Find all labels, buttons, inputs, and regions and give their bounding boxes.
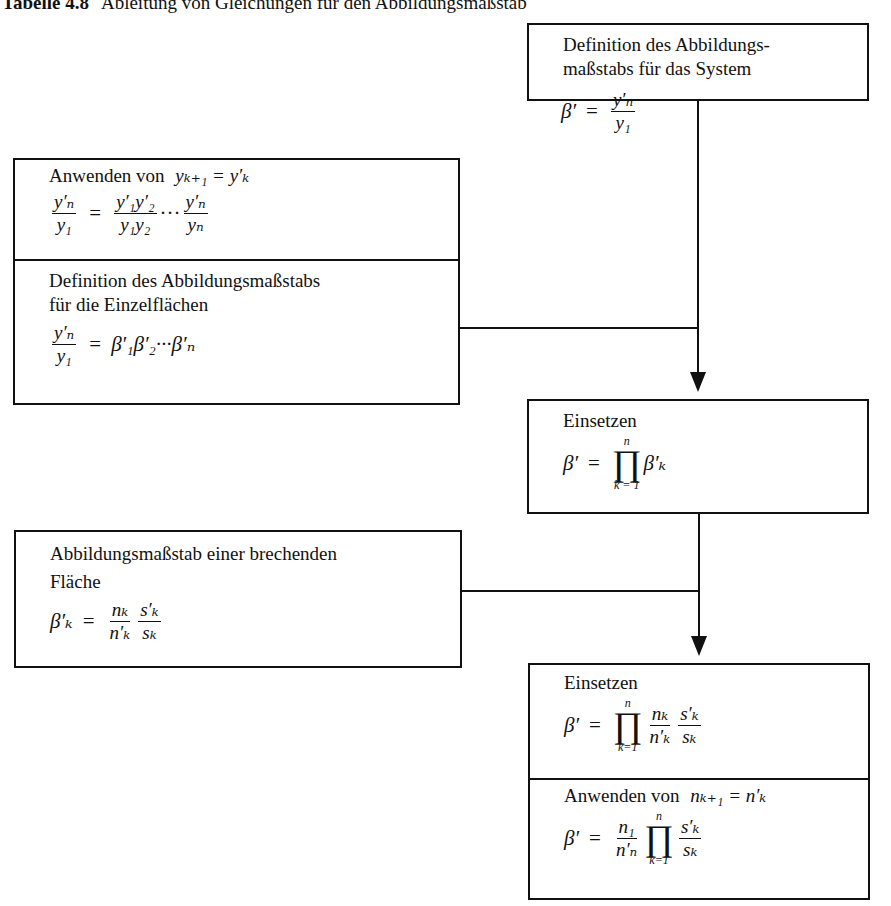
- box-substitute-2-and-apply-n: Einsetzen β′ = n∏k=1 nₖn′ₖ s′ₖsₖ Anwende…: [528, 663, 870, 900]
- apply-y-formula: y′ₙy₁ = y′₁y′₂y₁y₂ ··· y′ₙyₙ: [49, 192, 458, 235]
- substitute-2-label: Einsetzen: [564, 671, 868, 695]
- section-surface-definition: Definition des Abbildungsmaßstabs für di…: [15, 259, 458, 403]
- arrow-down-1: [690, 372, 706, 392]
- section-substitute-2: Einsetzen β′ = n∏k=1 nₖn′ₖ s′ₖsₖ: [530, 665, 868, 780]
- connector-vertical-1: [697, 100, 699, 380]
- table-caption: Tabelle 4.8Ableitung von Gleichungen für…: [2, 0, 527, 14]
- substitute-1-formula: β′ = n∏k = 1 β′ₖ: [563, 435, 867, 491]
- box-apply-y-and-surface-definition: Anwenden von yₖ₊₁ = y′ₖ y′ₙy₁ = y′₁y′₂y₁…: [13, 158, 460, 405]
- box-substitute-1: Einsetzen β′ = n∏k = 1 β′ₖ: [527, 399, 869, 514]
- apply-n-formula: β′ = n₁n′ₙ n∏k=1 s′ₖsₖ: [564, 810, 868, 866]
- substitute-2-formula: β′ = n∏k=1 nₖn′ₖ s′ₖsₖ: [564, 697, 868, 753]
- surface-definition-line1: Definition des Abbildungsmaßstabs: [49, 269, 458, 293]
- surface-definition-line2: für die Einzelflächen: [49, 293, 458, 317]
- apply-y-label: Anwenden von: [49, 165, 165, 186]
- connector-vertical-2: [698, 513, 700, 643]
- apply-y-condition: yₖ₊₁ = y′ₖ: [175, 165, 249, 186]
- refracting-surface-formula: β′ₖ = nₖn′ₖ s′ₖsₖ: [50, 600, 460, 643]
- caption-title: Ableitung von Gleichungen für den Abbild…: [101, 0, 527, 13]
- substitute-1-label: Einsetzen: [563, 409, 867, 433]
- connector-horizontal-2: [462, 590, 700, 592]
- section-apply-n: Anwenden von nₖ₊₁ = n′ₖ β′ = n₁n′ₙ n∏k=1…: [530, 778, 868, 898]
- section-apply-y: Anwenden von yₖ₊₁ = y′ₖ y′ₙy₁ = y′₁y′₂y₁…: [15, 160, 458, 261]
- connector-horizontal-1: [460, 327, 699, 329]
- refracting-surface-line2: Fläche: [50, 570, 460, 594]
- system-definition-formula: β′ = y′ₙy₁: [561, 90, 638, 133]
- system-definition-line2: maßstabs für das System: [563, 57, 867, 81]
- apply-n-label: Anwenden von: [564, 785, 680, 806]
- surface-definition-formula: y′ₙy₁ = β′₁β′₂···β′ₙ: [49, 323, 458, 366]
- caption-number: Tabelle 4.8: [2, 0, 89, 13]
- system-definition-line1: Definition des Abbildungs-: [563, 33, 867, 57]
- refracting-surface-line1: Abbildungsmaßstab einer brechenden: [50, 542, 460, 566]
- apply-n-condition: nₖ₊₁ = n′ₖ: [690, 785, 766, 806]
- arrow-down-2: [691, 636, 707, 656]
- box-refracting-surface: Abbildungsmaßstab einer brechenden Fläch…: [14, 530, 462, 668]
